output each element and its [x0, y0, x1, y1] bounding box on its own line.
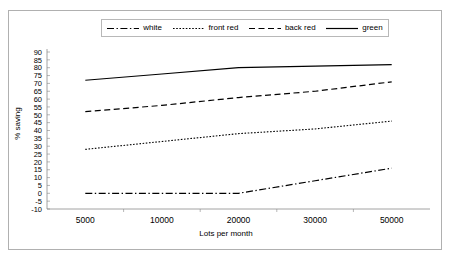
- series-line-front-red: [85, 121, 391, 149]
- x-tick-label: 30000: [303, 215, 327, 225]
- series-line-back-red: [85, 82, 391, 112]
- series-line-green: [85, 65, 391, 81]
- chart-plot-area: 908580757065605550454035302520151050-5-1…: [9, 11, 443, 251]
- x-tick-label: 50000: [380, 215, 404, 225]
- y-tick-label: -10: [31, 205, 42, 214]
- y-axis-title: % saving: [13, 94, 22, 154]
- series-line-white: [85, 168, 391, 193]
- x-tick-label: 5000: [76, 215, 95, 225]
- x-axis-title: Lots per month: [9, 229, 443, 238]
- x-tick-label: 20000: [227, 215, 251, 225]
- chart-canvas: 908580757065605550454035302520151050-5-1…: [9, 11, 443, 251]
- series-lines: [85, 65, 391, 194]
- x-axis-ticks: 500010000200003000050000: [76, 209, 404, 225]
- chart-figure: white front red back red: [8, 10, 442, 250]
- axis-lines: [47, 49, 430, 209]
- x-tick-label: 10000: [150, 215, 174, 225]
